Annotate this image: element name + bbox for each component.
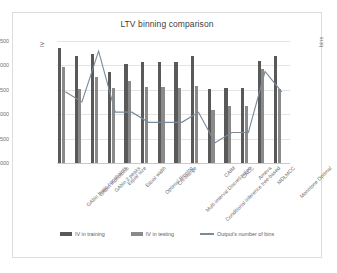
- line-output-number-of-bins: [65, 51, 281, 143]
- legend-swatch: [60, 232, 72, 236]
- x-axis-labels: GAbin basic constraintsGAbin monotonicGA…: [57, 165, 290, 227]
- legend-item: Output's number of bins: [200, 231, 274, 237]
- y-axis-left-tick: 0.1500: [0, 87, 9, 93]
- y-axis-left-tick: 0.1000: [0, 111, 9, 117]
- legend-label: IV in testing: [146, 231, 174, 237]
- legend-swatch: [131, 232, 143, 236]
- line-series-layer: [57, 41, 290, 163]
- y-axis-left-tick: 0.0000: [0, 160, 9, 166]
- gridline: [57, 163, 290, 164]
- chart-title: LTV binning comparison: [13, 19, 321, 29]
- y-axis-left-tick: 0.0500: [0, 136, 9, 142]
- chart-legend: IV in trainingIV in testingOutput's numb…: [13, 231, 321, 237]
- legend-item: IV in testing: [131, 231, 174, 237]
- legend-label: Output's number of bins: [217, 231, 274, 237]
- y-axis-left-tick: 0.2000: [0, 62, 9, 68]
- chart-container: LTV binning comparison IV bins 0.25000.2…: [12, 12, 322, 258]
- y-axis-left-tick: 0.2500: [0, 38, 9, 44]
- x-axis-label: Conditional inference tree-based: [224, 165, 281, 222]
- x-axis-label: CAIM: [223, 165, 236, 178]
- y-axis-right-label: bins: [318, 37, 324, 47]
- x-axis-label: CACC: [240, 165, 255, 180]
- legend-label: IV in training: [75, 231, 105, 237]
- plot-area: 0.25000.20000.15000.10000.05000.0000 121…: [57, 41, 290, 163]
- y-axis-left-label: IV: [39, 42, 45, 47]
- legend-item: IV in training: [60, 231, 105, 237]
- legend-swatch: [200, 233, 214, 234]
- x-axis-label: Monotone Optimal: [298, 165, 332, 199]
